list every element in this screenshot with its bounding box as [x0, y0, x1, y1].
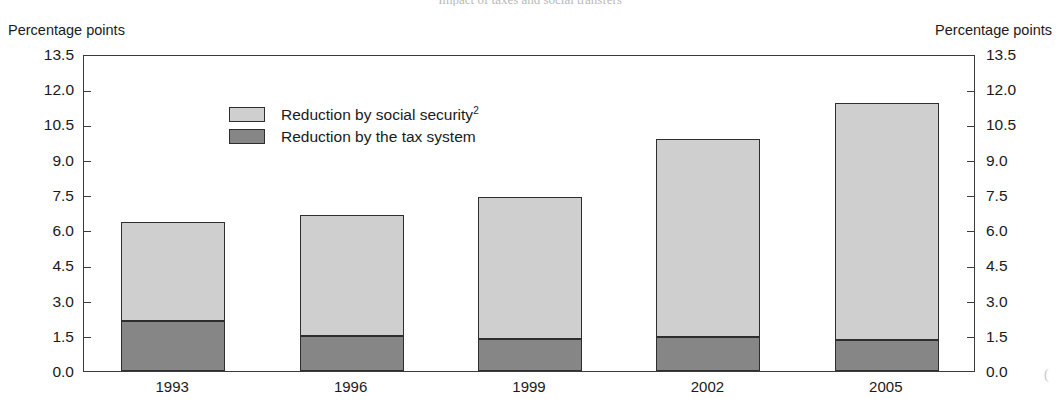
y-axis-tick	[84, 55, 91, 56]
y-axis-left-tick-label: 1.5	[16, 329, 74, 345]
bar-segment-tax-system-2002	[656, 337, 760, 371]
legend-item-social-security: Reduction by social security2	[229, 104, 479, 125]
bar-segment-tax-system-1993	[121, 321, 225, 371]
bar-segment-tax-system-2005	[835, 340, 939, 371]
right-axis-caption: Percentage points	[935, 22, 1052, 38]
legend-swatch-social-security-icon	[229, 107, 265, 122]
bar-segment-social-security-1999	[478, 197, 582, 339]
x-axis-tick-label-1999: 1999	[469, 378, 589, 395]
y-axis-right-tick-label: 3.0	[986, 294, 1044, 310]
bar-segment-tax-system-1996	[300, 336, 404, 371]
legend-item-tax-system: Reduction by the tax system	[229, 126, 479, 147]
y-axis-left-tick-label: 10.5	[16, 117, 74, 133]
chart-legend: Reduction by social security2 Reduction …	[229, 104, 479, 148]
bar-group-2005	[835, 54, 939, 371]
y-axis-tick	[967, 302, 974, 303]
y-axis-right-tick-label: 0.0	[986, 364, 1044, 380]
bar-group-1999	[478, 54, 582, 371]
y-axis-left-tick-label: 0.0	[16, 364, 74, 380]
y-axis-tick	[967, 267, 974, 268]
legend-footnote-marker: 2	[473, 105, 479, 116]
bar-group-2002	[656, 54, 760, 371]
bar-group-1993	[121, 54, 225, 371]
y-axis-right-tick-label: 1.5	[986, 329, 1044, 345]
y-axis-tick	[967, 55, 974, 56]
y-axis-right-tick-label: 10.5	[986, 117, 1044, 133]
bar-segment-tax-system-1999	[478, 339, 582, 371]
y-axis-right-tick-label: 13.5	[986, 47, 1044, 63]
x-axis-tick-label-1996: 1996	[291, 378, 411, 395]
y-axis-tick	[84, 231, 91, 232]
legend-label-social-security: Reduction by social security2	[281, 105, 479, 124]
y-axis-tick	[967, 337, 974, 338]
y-axis-right-tick-label: 12.0	[986, 82, 1044, 98]
bar-segment-social-security-2005	[835, 103, 939, 340]
x-axis-tick-label-1993: 1993	[112, 378, 232, 395]
y-axis-left-tick-label: 13.5	[16, 47, 74, 63]
y-axis-left-tick-label: 4.5	[16, 258, 74, 274]
y-axis-tick	[84, 91, 91, 92]
y-axis-left-tick-label: 3.0	[16, 294, 74, 310]
y-axis-tick	[967, 196, 974, 197]
y-axis-tick	[967, 91, 974, 92]
y-axis-tick	[84, 302, 91, 303]
y-axis-tick	[967, 126, 974, 127]
bar-group-1996	[300, 54, 404, 371]
left-axis-caption: Percentage points	[8, 22, 125, 38]
plot-area	[83, 55, 975, 372]
y-axis-tick	[967, 161, 974, 162]
y-axis-tick	[84, 267, 91, 268]
y-axis-tick	[84, 196, 91, 197]
bar-segment-social-security-1993	[121, 222, 225, 321]
y-axis-left-tick-label: 7.5	[16, 188, 74, 204]
y-axis-right-tick-label: 7.5	[986, 188, 1044, 204]
y-axis-left-tick-label: 6.0	[16, 223, 74, 239]
y-axis-tick	[84, 161, 91, 162]
legend-label-tax-system: Reduction by the tax system	[281, 128, 476, 146]
bar-segment-social-security-2002	[656, 139, 760, 337]
legend-swatch-tax-system-icon	[229, 129, 265, 144]
y-axis-left-tick-label: 12.0	[16, 82, 74, 98]
scan-artefact: (	[1044, 368, 1050, 382]
y-axis-right-tick-label: 6.0	[986, 223, 1044, 239]
y-axis-left-tick-label: 9.0	[16, 153, 74, 169]
y-axis-tick	[967, 231, 974, 232]
y-axis-tick	[84, 337, 91, 338]
y-axis-tick	[84, 126, 91, 127]
chart-title: Impact of taxes and social transfers	[0, 0, 1060, 6]
x-axis-tick-label-2005: 2005	[826, 378, 946, 395]
y-axis-right-tick-label: 9.0	[986, 153, 1044, 169]
x-axis-tick-label-2002: 2002	[647, 378, 767, 395]
y-axis-right-tick-label: 4.5	[986, 258, 1044, 274]
bar-segment-social-security-1996	[300, 215, 404, 336]
